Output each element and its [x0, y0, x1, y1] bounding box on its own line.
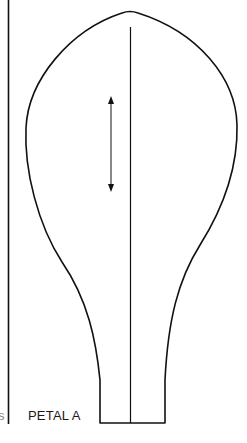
petal-outline	[26, 12, 237, 424]
stray-mark: s	[0, 409, 5, 423]
pattern-drawing	[0, 0, 247, 443]
grain-arrow-icon	[108, 96, 114, 192]
pattern-label: PETAL A	[28, 409, 81, 423]
petal-pattern: s PETAL A	[0, 0, 247, 443]
